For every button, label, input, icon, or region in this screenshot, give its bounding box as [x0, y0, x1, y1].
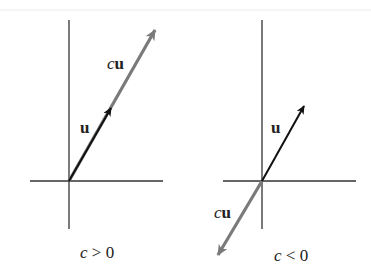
label-u: u: [80, 118, 89, 137]
caption: c > 0: [80, 243, 114, 262]
scalar-multiplication-diagram: cu u c > 0 u cu c < 0: [0, 0, 371, 269]
panel-c-positive: cu u c > 0: [30, 20, 163, 262]
label-cu: cu: [107, 54, 124, 73]
label-u: u: [271, 118, 280, 137]
vector-u-arrow: [262, 106, 304, 181]
label-cu: cu: [214, 203, 231, 222]
vector-u-arrow: [69, 108, 111, 181]
caption: c < 0: [274, 246, 308, 265]
panel-c-negative: u cu c < 0: [214, 20, 356, 265]
